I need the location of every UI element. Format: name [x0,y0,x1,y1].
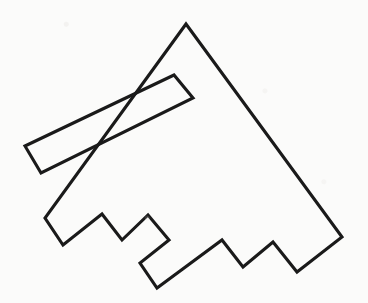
paper-background [0,0,368,303]
figure-container [0,0,368,303]
figure-drawing [0,0,368,303]
